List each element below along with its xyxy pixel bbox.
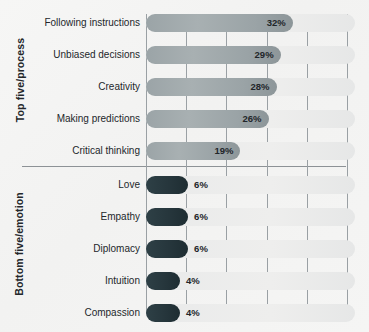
bar-empathy (146, 208, 188, 226)
bar-row: 6% (146, 240, 347, 258)
bar-row: 4% (146, 304, 347, 322)
bar-row: 32% (146, 14, 347, 32)
bar-row: 28% (146, 78, 347, 96)
bar-compassion (146, 304, 180, 322)
bar-row: 26% (146, 110, 347, 128)
plot-area: 32%29%28%26%19%6%6%6%4%4% (146, 14, 347, 312)
category-label: Empathy (14, 208, 140, 226)
bar-value-label: 6% (194, 240, 208, 258)
category-label: Love (14, 176, 140, 194)
category-label: Making predictions (14, 110, 140, 128)
category-label: Creativity (14, 78, 140, 96)
bar-row: 6% (146, 208, 347, 226)
bar-value-label: 32% (267, 14, 286, 32)
category-label: Intuition (14, 272, 140, 290)
category-label: Compassion (14, 304, 140, 322)
bar-row: 29% (146, 46, 347, 64)
bar-row: 6% (146, 176, 347, 194)
category-label: Diplomacy (14, 240, 140, 258)
category-label: Following instructions (14, 14, 140, 32)
bar-value-label: 28% (251, 78, 270, 96)
category-label: Critical thinking (14, 142, 140, 160)
bar-love (146, 176, 188, 194)
bar-intuition (146, 272, 180, 290)
bar-row: 4% (146, 272, 347, 290)
bar-value-label: 4% (186, 304, 200, 322)
bar-row: 19% (146, 142, 347, 160)
bar-chart: Top five/process Bottom five/emotion Fol… (0, 0, 369, 332)
bar-value-label: 6% (194, 208, 208, 226)
bar-value-label: 29% (255, 46, 274, 64)
bar-value-label: 26% (243, 110, 262, 128)
category-label-column: Following instructionsUnbiased decisions… (8, 14, 140, 312)
bar-value-label: 6% (194, 176, 208, 194)
bar-diplomacy (146, 240, 188, 258)
category-label: Unbiased decisions (14, 46, 140, 64)
bar-value-label: 4% (186, 272, 200, 290)
bar-value-label: 19% (214, 142, 233, 160)
